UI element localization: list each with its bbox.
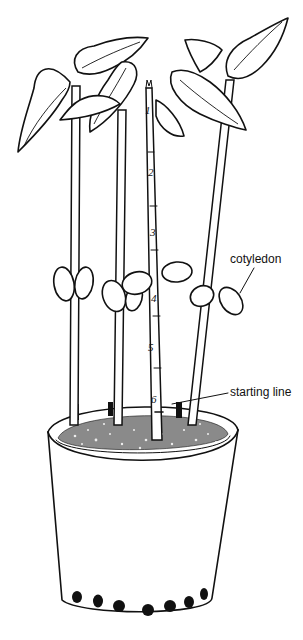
ruler-mark-4: 4 [151, 292, 157, 304]
cotyledon-label: cotyledon [230, 252, 281, 266]
ruler-mark-5: 5 [148, 341, 154, 353]
cotyledon-leader-line [240, 268, 254, 293]
ruler-mark-2: 2 [148, 166, 154, 178]
ruler-mark-6: 6 [151, 393, 157, 405]
pot [48, 402, 238, 616]
measuring-stake [146, 80, 163, 440]
ruler-mark-1: 1 [145, 104, 151, 116]
starting-line-label: starting line [230, 385, 291, 399]
soil [58, 416, 228, 450]
seedling-pot-illustration [0, 0, 303, 640]
ruler-mark-3: 3 [150, 226, 156, 238]
